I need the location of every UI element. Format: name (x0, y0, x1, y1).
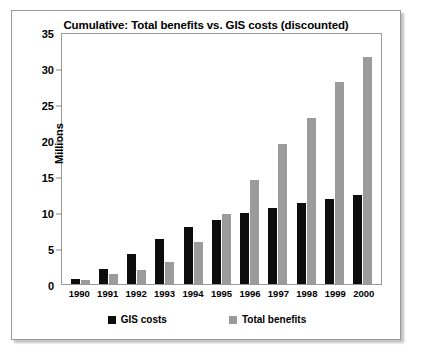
y-axis-tick: 0 (48, 280, 62, 292)
legend-item: Total benefits (229, 314, 306, 325)
bar-gis-costs (155, 239, 164, 284)
y-axis-tick-label: 10 (42, 208, 54, 220)
bar-series-container (62, 34, 381, 284)
y-axis-tick-label: 0 (48, 280, 54, 292)
y-axis-tick: 20 (42, 136, 62, 148)
bar-group (151, 34, 179, 284)
y-axis-tick-label: 30 (42, 64, 54, 76)
plot-area: Millions 05101520253035 (61, 33, 382, 285)
bar-group (292, 34, 320, 284)
y-axis-tick: 10 (42, 208, 62, 220)
legend-label: Total benefits (242, 314, 306, 325)
bar-group (264, 34, 292, 284)
x-axis-tick-label: 1990 (65, 288, 93, 299)
legend-swatch-icon (229, 316, 237, 324)
y-axis-tick: 30 (42, 64, 62, 76)
bar-gis-costs (127, 254, 136, 284)
x-axis-tick-label: 1996 (236, 288, 264, 299)
bar-gis-costs (240, 213, 249, 284)
bar-group (207, 34, 235, 284)
bar-gis-costs (325, 199, 334, 284)
bar-group (349, 34, 377, 284)
bar-gis-costs (268, 208, 277, 284)
bar-total-benefits (363, 57, 372, 284)
chart-legend: GIS costsTotal benefits (12, 314, 402, 325)
bar-gis-costs (99, 269, 108, 284)
bar-total-benefits (250, 180, 259, 284)
bar-total-benefits (109, 274, 118, 284)
y-axis-tick-label: 5 (48, 244, 54, 256)
x-axis-tick-label: 1995 (207, 288, 235, 299)
chart-card: Cumulative: Total benefits vs. GIS costs… (11, 10, 401, 340)
bar-total-benefits (194, 242, 203, 284)
y-axis-tick: 15 (42, 172, 62, 184)
x-axis-tick-label: 1997 (264, 288, 292, 299)
y-axis-tick: 5 (48, 244, 62, 256)
x-axis-tick-label: 1994 (179, 288, 207, 299)
y-axis-tick-label: 35 (42, 28, 54, 40)
x-axis-tick-label: 1993 (150, 288, 178, 299)
bar-group (320, 34, 348, 284)
bar-group (123, 34, 151, 284)
bar-total-benefits (222, 214, 231, 284)
bar-group (236, 34, 264, 284)
x-axis-tick-label: 1991 (93, 288, 121, 299)
bar-total-benefits (278, 144, 287, 284)
bar-gis-costs (184, 227, 193, 284)
bar-gis-costs (71, 279, 80, 284)
bar-total-benefits (335, 82, 344, 284)
y-axis-tick: 35 (42, 28, 62, 40)
bar-group (179, 34, 207, 284)
bar-total-benefits (137, 270, 146, 284)
bar-group (66, 34, 94, 284)
bar-gis-costs (212, 220, 221, 284)
y-axis-tick-label: 15 (42, 172, 54, 184)
bar-gis-costs (353, 195, 362, 284)
legend-item: GIS costs (108, 314, 167, 325)
y-axis-tick: 25 (42, 100, 62, 112)
bar-total-benefits (307, 118, 316, 284)
bar-total-benefits (81, 280, 90, 284)
x-axis-tick-label: 2000 (350, 288, 378, 299)
bar-total-benefits (165, 262, 174, 284)
plot-wrapper: Millions 05101520253035 1990199119921993… (12, 11, 402, 341)
x-axis-labels: 1990199119921993199419951996199719981999… (61, 288, 382, 299)
x-axis-tick-label: 1998 (293, 288, 321, 299)
y-axis-tick-label: 25 (42, 100, 54, 112)
bar-gis-costs (297, 203, 306, 284)
x-axis-tick-label: 1999 (321, 288, 349, 299)
legend-swatch-icon (108, 316, 116, 324)
legend-label: GIS costs (121, 314, 167, 325)
y-axis-tick-label: 20 (42, 136, 54, 148)
x-axis-tick-label: 1992 (122, 288, 150, 299)
chart-screenshot: Cumulative: Total benefits vs. GIS costs… (0, 0, 422, 355)
bar-group (94, 34, 122, 284)
